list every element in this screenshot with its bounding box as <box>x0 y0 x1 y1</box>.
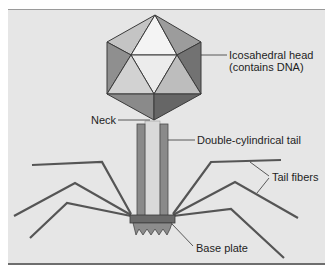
icosahedral-head-label: Icosahedral head <box>229 49 313 61</box>
neck-label: Neck <box>91 114 116 126</box>
icosahedral-head <box>107 15 201 120</box>
base-plate-label: Base plate <box>196 242 248 254</box>
double-cylindrical-tail <box>137 121 168 216</box>
tail-fibers-label: Tail fibers <box>272 171 318 183</box>
double-cylindrical-tail-label: Double-cylindrical tail <box>197 134 301 146</box>
contains-dna-label: (contains DNA) <box>229 61 304 73</box>
base-plate <box>130 215 175 235</box>
